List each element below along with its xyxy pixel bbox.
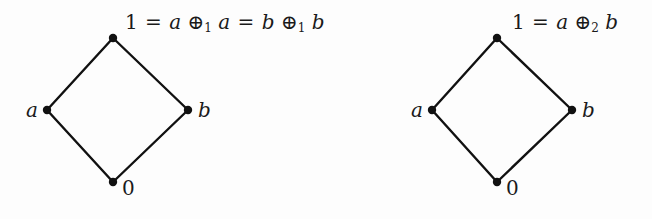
left-label-a2: a <box>218 10 230 34</box>
figure-container: 1 = a ⊕1 a = b ⊕1 b 1 = a ⊕2 b a b 0 a b… <box>0 0 652 219</box>
edge-top-to-b-left <box>113 38 188 110</box>
edge-bottom-to-b-right <box>497 110 572 182</box>
left-label-eq1: = <box>144 10 163 34</box>
right-label-sub1: 2 <box>591 21 599 35</box>
node-zero-right <box>493 178 501 186</box>
edge-bottom-to-b-left <box>113 110 188 182</box>
edge-top-to-b-right <box>497 38 572 110</box>
node-label-a-left: a <box>26 100 38 120</box>
left-label-eq2: = <box>237 10 256 34</box>
left-label-one: 1 <box>125 10 138 34</box>
right-label-b1: b <box>605 10 618 34</box>
left-label-b2: b <box>312 10 325 34</box>
edge-a-to-bottom-right <box>432 110 497 182</box>
left-label-sub2: 1 <box>298 21 306 35</box>
left-lattice-top-label: 1 = a ⊕1 a = b ⊕1 b <box>125 12 324 34</box>
node-top-left <box>109 34 117 42</box>
left-label-a1: a <box>169 10 181 34</box>
right-lattice-group <box>428 34 576 186</box>
node-label-zero-left: 0 <box>122 178 135 198</box>
edge-a-to-bottom-left <box>47 110 113 182</box>
left-label-b1: b <box>262 10 275 34</box>
right-label-a1: a <box>556 10 568 34</box>
edge-a-to-top-right <box>432 38 497 110</box>
left-label-sub1: 1 <box>204 21 212 35</box>
node-label-zero-right: 0 <box>506 178 519 198</box>
node-label-b-right: b <box>582 100 595 120</box>
node-b-right <box>568 106 576 114</box>
node-top-right <box>493 34 501 42</box>
node-zero-left <box>109 178 117 186</box>
oplus-icon-left-1: ⊕ <box>188 10 205 34</box>
right-lattice-top-label: 1 = a ⊕2 b <box>512 12 618 34</box>
edge-a-to-top-left <box>47 38 113 110</box>
left-lattice-group <box>43 34 192 186</box>
node-label-b-left: b <box>198 100 211 120</box>
node-label-a-right: a <box>411 100 423 120</box>
oplus-icon-right-1: ⊕ <box>575 10 592 34</box>
right-label-one: 1 <box>512 10 525 34</box>
oplus-icon-left-2: ⊕ <box>281 10 298 34</box>
node-a-right <box>428 106 436 114</box>
right-label-eq1: = <box>531 10 550 34</box>
node-b-left <box>184 106 192 114</box>
node-a-left <box>43 106 51 114</box>
